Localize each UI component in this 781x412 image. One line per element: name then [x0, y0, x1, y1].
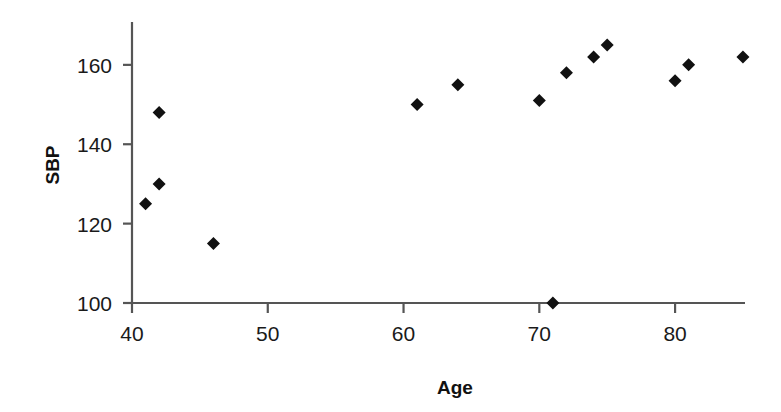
data-point-marker — [601, 39, 614, 52]
data-point-marker — [533, 94, 546, 107]
data-point-marker — [153, 177, 166, 190]
data-point-marker — [546, 297, 559, 310]
data-markers — [139, 39, 749, 310]
scatter-chart: 1001201401604050607080 SBP Age — [0, 0, 781, 412]
data-point-marker — [451, 78, 464, 91]
data-point-marker — [682, 58, 695, 71]
y-tick-label: 120 — [0, 213, 112, 234]
x-tick-label: 70 — [528, 323, 551, 344]
data-point-marker — [153, 106, 166, 119]
data-point-marker — [207, 237, 220, 250]
data-point-marker — [587, 50, 600, 63]
x-tick-label: 50 — [256, 323, 279, 344]
y-axis-title: SBP — [43, 145, 62, 184]
x-tick-label: 40 — [120, 323, 143, 344]
plot-area — [0, 0, 781, 412]
y-tick-label: 100 — [0, 293, 112, 314]
x-axis-title: Age — [437, 378, 473, 397]
x-tick-label: 60 — [392, 323, 415, 344]
data-point-marker — [736, 50, 749, 63]
data-point-marker — [560, 66, 573, 79]
data-point-marker — [669, 74, 682, 87]
data-point-marker — [139, 197, 152, 210]
data-point-marker — [411, 98, 424, 111]
axis-ticks — [123, 65, 675, 313]
x-tick-label: 80 — [663, 323, 686, 344]
axes — [132, 22, 745, 303]
y-tick-label: 160 — [0, 54, 112, 75]
